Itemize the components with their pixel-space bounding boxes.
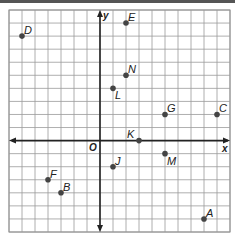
grid [9,10,230,232]
point-label-k: K [127,128,135,140]
point-label-g: G [167,102,176,114]
y-axis-label: y [102,10,109,21]
point-label-l: L [115,89,121,101]
point-k [136,138,142,144]
x-axis-label: x [221,143,228,154]
point-label-n: N [128,63,136,75]
point-label-c: C [219,102,227,114]
point-label-e: E [128,11,136,23]
point-label-d: D [24,24,32,36]
origin-label: O [89,142,97,153]
point-label-a: A [205,207,213,219]
point-label-j: J [114,155,121,167]
plot-border [9,10,230,232]
coordinate-plane: x y O ABCDEFGJKLMN [0,0,235,246]
point-label-b: B [63,181,70,193]
point-label-m: M [167,155,177,167]
